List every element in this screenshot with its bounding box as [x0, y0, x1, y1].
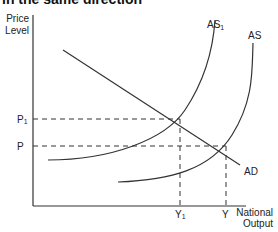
y-axis-label-line2: Level [5, 25, 29, 36]
ad-curve [63, 50, 240, 165]
as-curve [118, 43, 253, 182]
y1-tick-label: Y1 [175, 209, 186, 220]
y-tick-label: Y [222, 209, 229, 220]
x-axis-label-line2: Output [243, 218, 273, 229]
p1-tick-label: P1 [17, 114, 28, 125]
ad-as-chart: Price Level National Output AD AS1 AS P1… [0, 0, 278, 232]
as1-label: AS1 [207, 19, 224, 31]
as-label: AS [248, 30, 262, 41]
ad-label: AD [244, 166, 258, 177]
x-axis-label-line1: National [236, 207, 273, 218]
as1-curve [48, 20, 215, 160]
y-axis-label-line1: Price [6, 13, 29, 24]
p-tick-label: P [17, 141, 24, 152]
